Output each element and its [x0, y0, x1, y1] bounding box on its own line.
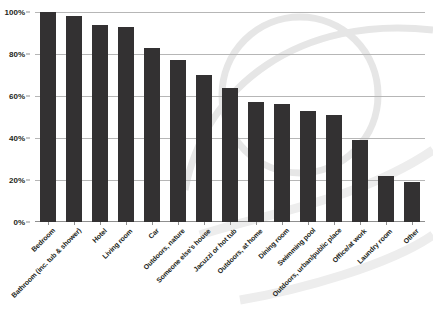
y-tick-label-0: 0% [13, 218, 25, 227]
x-tick-mark [412, 222, 413, 225]
x-tick-mark [256, 222, 257, 225]
x-axis-label: Bedroom [30, 227, 56, 253]
bar [274, 104, 290, 222]
y-tick-label-20: 20% [9, 176, 25, 185]
x-axis-labels: BedroomBathroom (inc. tub & shower)Hotel… [35, 224, 433, 315]
x-axis-label: Other [402, 227, 420, 245]
bar [40, 12, 56, 222]
bar [118, 27, 134, 222]
x-tick-mark [126, 222, 127, 225]
bar [326, 115, 342, 222]
y-tick-mark-60 [26, 96, 30, 97]
x-tick-mark [178, 222, 179, 225]
bar [170, 60, 186, 222]
bar [352, 140, 368, 222]
y-tick-label-80: 80% [9, 50, 25, 59]
y-tick-label-60: 60% [9, 92, 25, 101]
bar [92, 25, 108, 222]
x-tick-mark [74, 222, 75, 225]
plot-area [35, 12, 425, 222]
bar [222, 88, 238, 222]
bar [300, 111, 316, 222]
y-tick-label-100: 100% [5, 8, 25, 17]
bar [196, 75, 212, 222]
y-tick-label-40: 40% [9, 134, 25, 143]
bar [404, 182, 420, 222]
x-tick-mark [360, 222, 361, 225]
bar-chart: 100% 80% 60% 40% 20% 0% BedroomBathroom … [0, 0, 433, 315]
bar [144, 48, 160, 222]
x-tick-mark [100, 222, 101, 225]
y-tick-mark-100 [26, 12, 30, 13]
y-tick-mark-0 [26, 222, 30, 223]
x-tick-mark [334, 222, 335, 225]
x-tick-mark [48, 222, 49, 225]
y-tick-mark-40 [26, 138, 30, 139]
y-axis: 100% 80% 60% 40% 20% 0% [0, 12, 30, 222]
x-axis-label: Hotel [91, 227, 108, 244]
x-tick-mark [308, 222, 309, 225]
x-tick-mark [386, 222, 387, 225]
bar [248, 102, 264, 222]
y-tick-mark-20 [26, 180, 30, 181]
x-tick-mark [152, 222, 153, 225]
x-tick-mark [282, 222, 283, 225]
x-tick-mark [204, 222, 205, 225]
bar [66, 16, 82, 222]
x-axis-label: Outdoors, at home [216, 227, 264, 275]
x-tick-mark [230, 222, 231, 225]
bar-series [35, 12, 425, 222]
bar [378, 176, 394, 222]
x-axis-label: Car [147, 227, 160, 240]
y-tick-mark-80 [26, 54, 30, 55]
